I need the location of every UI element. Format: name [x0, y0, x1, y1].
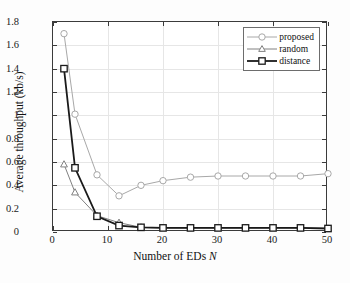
- data-point: [242, 225, 248, 231]
- x-tick-label: 40: [267, 234, 278, 245]
- data-point: [61, 161, 68, 167]
- data-point: [94, 213, 100, 219]
- data-point: [160, 177, 166, 183]
- data-point: [297, 173, 303, 179]
- legend-item-random: random: [247, 43, 314, 55]
- data-point: [297, 225, 303, 231]
- data-point: [116, 193, 122, 199]
- data-point: [215, 173, 221, 179]
- series-line: [64, 69, 328, 229]
- x-tick-label: 20: [157, 234, 168, 245]
- data-point: [242, 173, 248, 179]
- series-random: [61, 161, 332, 231]
- legend-label-distance: distance: [277, 56, 310, 66]
- data-point: [61, 30, 67, 36]
- legend-item-proposed: proposed: [247, 31, 314, 43]
- chart-figure: proposed random distance: [0, 0, 350, 283]
- data-point: [325, 170, 331, 176]
- data-point: [270, 173, 276, 179]
- data-point: [138, 224, 144, 230]
- data-point: [270, 225, 276, 231]
- x-tick-label: 50: [322, 234, 333, 245]
- data-point: [187, 225, 193, 231]
- data-point: [72, 189, 79, 195]
- data-point: [138, 182, 144, 188]
- chart-legend: proposed random distance: [243, 27, 320, 71]
- data-point: [94, 172, 100, 178]
- data-point: [72, 111, 78, 117]
- x-tick-label: 30: [212, 234, 223, 245]
- y-tick-label: 1.8: [6, 16, 19, 27]
- series-distance: [61, 65, 331, 231]
- x-axis-title: Number of EDs N: [0, 250, 350, 262]
- data-point: [116, 222, 122, 228]
- legend-swatch-triangle-icon: [247, 43, 277, 55]
- data-point: [72, 165, 78, 171]
- legend-item-distance: distance: [247, 55, 314, 67]
- data-point: [187, 174, 193, 180]
- x-tick-label: 10: [102, 234, 113, 245]
- legend-swatch-square-icon: [247, 55, 277, 67]
- data-point: [160, 225, 166, 231]
- legend-swatch-circle-icon: [247, 31, 277, 43]
- legend-label-random: random: [277, 44, 308, 54]
- data-point: [215, 225, 221, 231]
- legend-label-proposed: proposed: [277, 32, 314, 42]
- x-tick-label: 0: [49, 234, 54, 245]
- data-point: [325, 225, 331, 231]
- plot-area: proposed random distance: [52, 21, 327, 231]
- data-point: [61, 65, 67, 71]
- y-axis-title: Average throughput (kb/s): [13, 27, 25, 237]
